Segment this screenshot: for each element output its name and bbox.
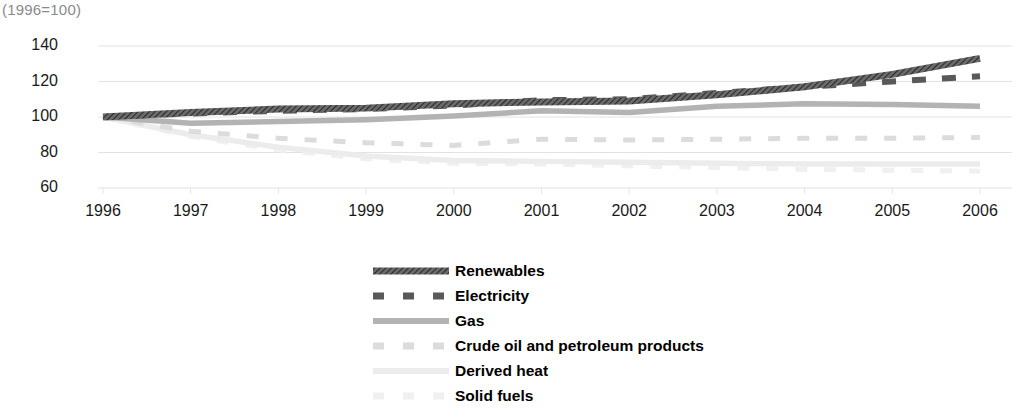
y-axis-tick-label: 140	[0, 36, 58, 54]
x-axis-tick-label: 2005	[847, 202, 937, 220]
x-axis-tick-label: 2004	[760, 202, 850, 220]
legend-label: Gas	[455, 313, 484, 329]
x-axis-tick-label: 1996	[58, 202, 148, 220]
legend-item[interactable]: Solid fuels	[0, 383, 1022, 408]
legend-label: Crude oil and petroleum products	[455, 338, 704, 354]
legend-swatch-icon	[372, 389, 450, 403]
legend-swatch-icon	[372, 289, 450, 303]
x-axis-tick-label: 1999	[321, 202, 411, 220]
legend-swatch-icon	[372, 339, 450, 353]
x-axis-tick-label: 2003	[672, 202, 762, 220]
legend-label: Electricity	[455, 288, 529, 304]
legend-swatch-icon	[372, 264, 450, 278]
x-axis-tick-label: 1998	[233, 202, 323, 220]
legend-label: Solid fuels	[455, 388, 533, 404]
x-axis-tick-label: 2006	[935, 202, 1022, 220]
legend-item[interactable]: Derived heat	[0, 358, 1022, 383]
legend-swatch-icon	[372, 314, 450, 328]
y-axis-tick-label: 120	[0, 72, 58, 90]
x-axis-tick-label: 2002	[584, 202, 674, 220]
x-axis-tick-label: 2001	[497, 202, 587, 220]
plot-area: 1401201008060 19961997199819992000200120…	[0, 0, 1022, 240]
legend-item[interactable]: Renewables	[0, 258, 1022, 283]
legend-label: Renewables	[455, 263, 545, 279]
y-axis-tick-label: 60	[0, 178, 58, 196]
chart-legend: RenewablesElectricityGasCrude oil and pe…	[0, 258, 1022, 408]
legend-swatch-icon	[372, 364, 450, 378]
legend-item[interactable]: Crude oil and petroleum products	[0, 333, 1022, 358]
legend-label: Derived heat	[455, 363, 548, 379]
x-axis-tick-label: 2000	[409, 202, 499, 220]
chart-container: (1996=100) 1401201008060 199619971998199…	[0, 0, 1022, 420]
legend-item[interactable]: Electricity	[0, 283, 1022, 308]
y-axis-tick-label: 100	[0, 107, 58, 125]
legend-item[interactable]: Gas	[0, 308, 1022, 333]
y-axis-tick-label: 80	[0, 143, 58, 161]
x-axis-tick-label: 1997	[146, 202, 236, 220]
